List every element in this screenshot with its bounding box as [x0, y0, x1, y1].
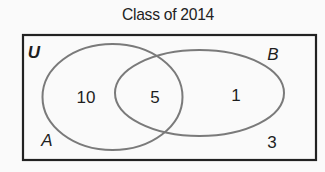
- set-b-ellipse: [115, 50, 284, 136]
- set-b-label: B: [267, 45, 278, 64]
- set-a-label: A: [40, 131, 52, 150]
- intersection-count: 5: [150, 88, 159, 107]
- b-only-count: 1: [231, 86, 240, 105]
- venn-diagram: U A B 10 5 1 3: [0, 0, 325, 172]
- universe-label: U: [28, 43, 41, 62]
- outside-count: 3: [267, 133, 276, 152]
- a-only-count: 10: [77, 88, 96, 107]
- set-a-ellipse: [43, 44, 183, 150]
